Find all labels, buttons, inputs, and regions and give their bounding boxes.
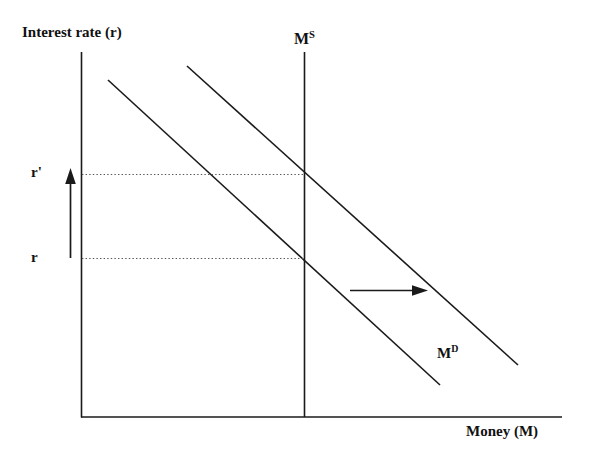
money-demand-label-base: M (437, 345, 451, 361)
money-demand-shift-arrow-icon (350, 285, 428, 296)
money-supply-label: MS (294, 30, 315, 47)
money-demand-curve-initial (108, 80, 440, 385)
y-axis-label: Interest rate (r) (22, 25, 122, 40)
money-supply-label-base: M (294, 30, 309, 47)
x-axis-label: Money (M) (466, 424, 538, 439)
chart-canvas (0, 0, 590, 463)
money-demand-curve-shifted (187, 66, 518, 365)
money-market-diagram: Interest rate (r) Money (M) MS MD r' r (0, 0, 590, 463)
interest-rate-new-label: r' (31, 165, 42, 180)
interest-rate-initial-label: r (31, 250, 38, 265)
money-demand-label: MD (437, 344, 458, 361)
money-supply-label-superscript: S (309, 29, 315, 40)
interest-rate-increase-arrow-icon (65, 168, 76, 258)
money-demand-label-superscript: D (451, 343, 458, 354)
